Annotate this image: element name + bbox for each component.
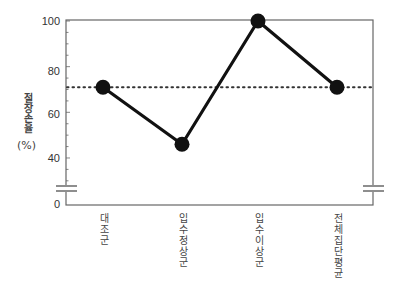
data-point-marker: [96, 80, 111, 95]
x-label-control: 대조군: [97, 213, 110, 246]
y-tick-0: 0: [54, 198, 60, 210]
x-label-normal-water: 입수정상군: [176, 213, 189, 268]
y-tick-40: 40: [48, 152, 60, 164]
x-label-abnormal-water: 입수이상군: [252, 213, 265, 268]
series-line: [103, 21, 337, 144]
y-axis-label: 절장손율: [20, 93, 35, 133]
plot-frame: [66, 20, 373, 205]
x-label-overall-average: 전체집단평균: [331, 213, 344, 279]
axis-break-left: [56, 185, 77, 192]
axis-break-right: [363, 185, 384, 192]
y-axis-unit: (%): [17, 139, 36, 152]
data-point-marker: [175, 137, 190, 152]
y-tick-100: 100: [42, 15, 60, 27]
data-point-marker: [251, 14, 266, 29]
y-tick-80: 80: [48, 65, 60, 77]
data-point-marker: [330, 80, 345, 95]
y-tick-60: 60: [48, 108, 60, 120]
